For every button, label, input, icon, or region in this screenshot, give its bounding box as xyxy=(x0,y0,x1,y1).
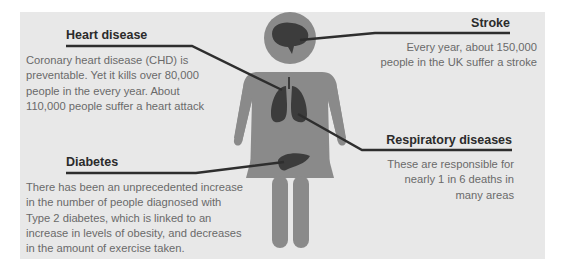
heart-disease-text: Coronary heart disease (CHD) is preventa… xyxy=(26,53,246,114)
right-leg-icon xyxy=(293,176,309,248)
diabetes-text: There has been an unprecedented increase… xyxy=(26,180,266,256)
stroke-leader-line xyxy=(300,33,510,40)
respiratory-diseases-text: These are responsible for nearly 1 in 6 … xyxy=(360,157,514,203)
left-leg-icon xyxy=(272,176,288,248)
diabetes-title: Diabetes xyxy=(66,155,118,169)
respiratory-diseases-title: Respiratory diseases xyxy=(360,133,512,147)
stroke-text: Every year, about 150,000 people in the … xyxy=(330,40,537,71)
heart-disease-title: Heart disease xyxy=(66,28,147,42)
stroke-title: Stroke xyxy=(440,16,510,30)
